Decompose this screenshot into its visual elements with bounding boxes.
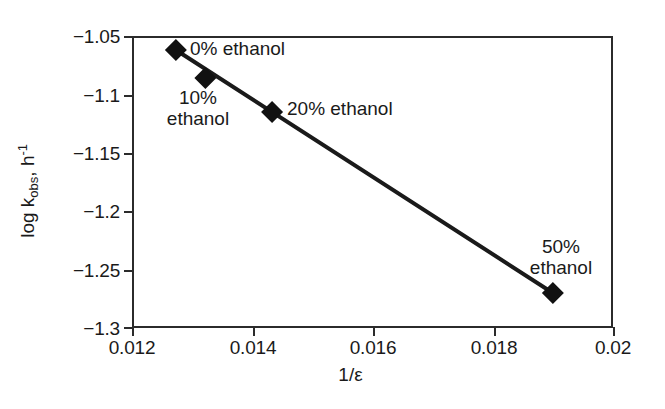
figure-root: −1.05 −1.1 −1.15 −1.2 −1.25 −1.3 0.012 0… <box>0 0 665 409</box>
x-tick-label: 0.018 <box>471 338 518 357</box>
y-tick-mark <box>124 36 133 38</box>
y-tick-label: −1.25 <box>73 261 120 280</box>
y-tick-mark <box>124 270 133 272</box>
plot-area <box>132 36 613 328</box>
y-tick-label: −1.15 <box>73 144 120 163</box>
x-tick-label: 0.02 <box>595 338 631 357</box>
y-tick-mark <box>124 95 133 97</box>
x-tick-mark <box>613 327 615 336</box>
label-20-percent: 20% ethanol <box>287 98 393 119</box>
x-axis-title: 1/ε <box>18 364 665 385</box>
x-tick-mark <box>253 327 255 336</box>
y-tick-label: −1.05 <box>73 27 120 46</box>
x-tick-mark <box>373 327 375 336</box>
x-tick-label: 0.016 <box>350 338 397 357</box>
y-axis-title-prefix: log k <box>17 198 38 238</box>
y-axis-title-mid: , h <box>17 156 38 177</box>
x-tick-mark <box>132 327 134 336</box>
label-0-percent: 0% ethanol <box>190 38 285 59</box>
y-tick-label: −1.3 <box>83 319 120 338</box>
x-tick-mark <box>494 327 496 336</box>
y-tick-label: −1.1 <box>83 86 120 105</box>
y-tick-label: −1.2 <box>83 202 120 221</box>
y-axis-title-superscript: -1 <box>15 144 30 156</box>
label-10-percent: 10% ethanol <box>167 87 229 129</box>
y-axis-title-subscript: obs <box>26 177 41 198</box>
y-tick-mark <box>124 211 133 213</box>
x-tick-label: 0.012 <box>109 338 156 357</box>
x-tick-label: 0.014 <box>230 338 277 357</box>
y-tick-mark <box>124 153 133 155</box>
y-axis-title: log kobs, h-1 <box>12 106 44 276</box>
label-50-percent: 50% ethanol <box>530 236 592 278</box>
